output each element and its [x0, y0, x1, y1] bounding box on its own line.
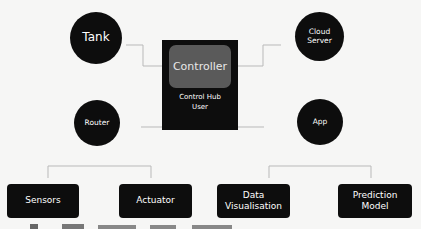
app-label: App — [313, 118, 328, 127]
app-node: App — [297, 99, 343, 145]
tank-label: Tank — [82, 31, 109, 45]
prediction-model-node: Prediction Model — [338, 184, 412, 218]
data-visualisation-node: Data Visualisation — [217, 184, 290, 218]
controller-caption-line2: User — [162, 102, 238, 112]
controller-title: Controller — [173, 60, 227, 73]
controller-caption-line1: Control Hub — [162, 92, 238, 102]
controller-node: Controller Control Hub User — [162, 40, 238, 130]
cut-off-caption — [22, 221, 262, 229]
sensors-label: Sensors — [25, 195, 61, 206]
data-visualisation-label-line1: Data — [225, 190, 282, 201]
controller-caption: Control Hub User — [162, 92, 238, 112]
router-node: Router — [74, 100, 120, 146]
actuator-label: Actuator — [136, 195, 174, 206]
cloud-server-node: Cloud Server — [295, 12, 344, 61]
prediction-model-label-line1: Prediction — [353, 190, 398, 201]
controller-title-box: Controller — [169, 45, 231, 88]
sensors-node: Sensors — [7, 184, 79, 218]
architecture-diagram: Tank Router Cloud Server App Controller … — [0, 0, 421, 229]
tank-node: Tank — [70, 12, 122, 64]
data-visualisation-label-line2: Visualisation — [225, 201, 282, 212]
router-label: Router — [85, 119, 110, 128]
actuator-node: Actuator — [119, 184, 192, 218]
cloud-server-label-line2: Server — [307, 37, 332, 46]
prediction-model-label-line2: Model — [353, 201, 398, 212]
illegible-text-fragments — [22, 221, 262, 229]
